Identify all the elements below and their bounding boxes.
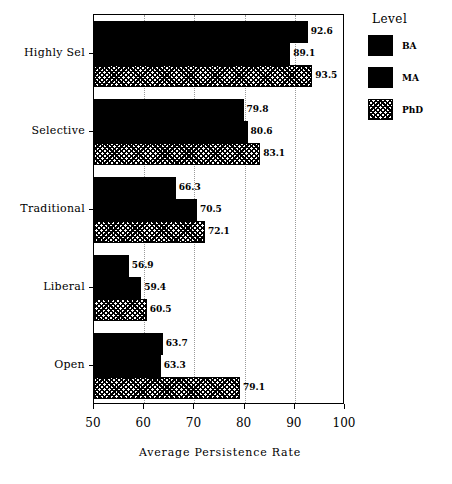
x-axis-tick-90 — [294, 404, 295, 409]
legend-swatch-ba — [368, 35, 393, 56]
legend-title: Level — [372, 12, 448, 26]
bar-phd-highly-sel — [94, 65, 312, 87]
x-axis-tick-80 — [244, 404, 245, 409]
y-axis-label-open: Open — [54, 359, 85, 370]
value-label-ma-traditional: 70.5 — [200, 205, 222, 214]
value-label-phd-liberal: 60.5 — [150, 305, 172, 314]
bar-phd-selective — [94, 143, 260, 165]
value-label-ba-open: 63.7 — [166, 339, 188, 348]
bar-ba-open — [94, 333, 163, 355]
x-axis-tick-label-100: 100 — [333, 417, 356, 429]
bar-ba-selective — [94, 99, 244, 121]
x-axis-tick-label-70: 70 — [186, 417, 201, 429]
legend-entry-phd: PhD — [368, 99, 448, 120]
y-axis-label-highly-sel: Highly Sel — [24, 47, 85, 58]
bar-phd-traditional — [94, 221, 205, 243]
value-label-phd-selective: 83.1 — [263, 149, 285, 158]
x-axis-tick-label-50: 50 — [85, 417, 100, 429]
value-label-ba-highly-sel: 92.6 — [311, 27, 333, 36]
x-axis-tick-label-80: 80 — [236, 417, 251, 429]
legend-entry-ma: MA — [368, 67, 448, 88]
y-axis-label-selective: Selective — [31, 125, 85, 136]
bar-ma-liberal — [94, 277, 141, 299]
y-axis-label-traditional: Traditional — [20, 203, 85, 214]
legend-label-phd: PhD — [402, 105, 423, 115]
y-axis-label-liberal: Liberal — [43, 281, 85, 292]
legend-label-ba: BA — [402, 41, 417, 51]
value-label-ba-selective: 79.8 — [247, 105, 269, 114]
x-axis-tick-50 — [93, 404, 94, 409]
value-label-ma-highly-sel: 89.1 — [293, 49, 315, 58]
value-label-ba-liberal: 56.9 — [132, 261, 154, 270]
legend-entry-ba: BA — [368, 35, 448, 56]
bar-ba-liberal — [94, 255, 129, 277]
legend-label-ma: MA — [402, 73, 419, 83]
bar-ma-open — [94, 355, 161, 377]
bar-ba-highly-sel — [94, 21, 308, 43]
value-label-ma-selective: 80.6 — [251, 127, 273, 136]
x-axis-title: Average Persistence Rate — [0, 446, 440, 459]
x-axis-tick-label-60: 60 — [136, 417, 151, 429]
value-label-ma-open: 63.3 — [164, 361, 186, 370]
bar-ma-traditional — [94, 199, 197, 221]
bar-ba-traditional — [94, 177, 176, 199]
legend-swatch-ma — [368, 67, 393, 88]
value-label-ma-liberal: 59.4 — [144, 283, 166, 292]
x-axis-tick-label-90: 90 — [286, 417, 301, 429]
legend-entries: BAMAPhD — [368, 35, 448, 120]
value-label-ba-traditional: 66.3 — [179, 183, 201, 192]
x-axis-tick-60 — [143, 404, 144, 409]
value-label-phd-traditional: 72.1 — [208, 227, 230, 236]
legend-swatch-phd — [368, 99, 393, 120]
x-axis-tick-100 — [344, 404, 345, 409]
bar-chart: Highly SelSelectiveTraditionalLiberalOpe… — [0, 0, 452, 484]
bar-ma-selective — [94, 121, 248, 143]
bar-ma-highly-sel — [94, 43, 290, 65]
bar-phd-open — [94, 377, 240, 399]
legend: Level BAMAPhD — [368, 12, 448, 131]
bar-phd-liberal — [94, 299, 147, 321]
x-axis-tick-70 — [193, 404, 194, 409]
value-label-phd-open: 79.1 — [243, 383, 265, 392]
value-label-phd-highly-sel: 93.5 — [315, 71, 337, 80]
